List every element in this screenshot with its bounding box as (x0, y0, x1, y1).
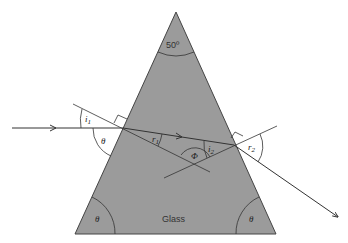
r2-label: r2 (248, 142, 256, 154)
r2-arc (258, 134, 263, 162)
base-left-angle-label: θ (95, 214, 100, 224)
prism-diagram: 50º θ θ Glass i1 θ r1 Φ i2 r2 (0, 0, 348, 243)
i1-label: i1 (85, 114, 91, 126)
i1-arc (80, 109, 82, 128)
apex-angle-label: 50º (166, 40, 180, 50)
right-angle-mark-entry (114, 115, 127, 123)
phi-label: Φ (191, 151, 198, 161)
base-right-angle-label: θ (249, 214, 254, 224)
glass-label: Glass (162, 214, 186, 224)
theta-incidence-label: θ (101, 136, 106, 146)
